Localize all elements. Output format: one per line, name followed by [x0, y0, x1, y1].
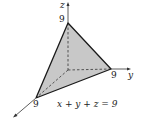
z-axis-arrow-icon	[67, 2, 70, 6]
z-axis-label: z	[59, 0, 65, 10]
tetrahedron-plane-diagram: z 9 9 y 9 x + y + z = 9	[0, 0, 141, 118]
x-intercept-label: 9	[33, 99, 39, 109]
y-intercept-label: 9	[111, 70, 117, 80]
y-axis-label: y	[127, 70, 134, 80]
plane-triangle	[36, 23, 111, 98]
plane-equation: x + y + z = 9	[57, 99, 118, 109]
z-intercept-label: 9	[59, 14, 65, 24]
